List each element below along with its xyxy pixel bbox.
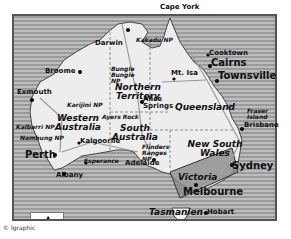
label-new-south-wales: New South Wales [180, 140, 250, 158]
label-exmouth: Exmouth [17, 89, 52, 96]
label-cooktown: Cooktown [209, 50, 248, 57]
label-darwin: Darwin [95, 40, 123, 47]
scale-bar: ▲ 0 500 km [30, 212, 64, 221]
label-hobart: Hobart [207, 209, 234, 216]
label-victoria: Victoria [178, 173, 217, 182]
label-cape-york: Cape York [160, 4, 199, 11]
label-alice-springs: Alice Springs [143, 96, 173, 110]
label-ayers-rock: Ayers Rock [102, 114, 139, 120]
label-cairns: Cairns [211, 58, 247, 68]
label-perth: Perth [25, 150, 56, 160]
label-kalgoorlie: Kalgoorlie [80, 138, 120, 145]
label-melbourne: Melbourne [183, 187, 243, 197]
label-kakadu-np: Kakadu NP [136, 37, 173, 43]
label-western-australia: Western Australia [48, 114, 108, 132]
label-sydney: Sydney [232, 161, 273, 171]
label-queensland: Queensland [175, 103, 235, 112]
label-albany: Albany [56, 172, 83, 179]
label-adelaide: Adelaide [125, 160, 159, 167]
north-arrow-icon: ▲ [45, 215, 51, 221]
label-kalbarri-np: Kalbarri NP [16, 124, 55, 130]
label-townsville: Townsville [218, 71, 276, 81]
label-karijini-np: Karijini NP [67, 102, 103, 108]
label-broome: Broome [45, 68, 75, 75]
label-esperance: Esperance [84, 158, 119, 164]
label-tasmanien: Tasmanien [149, 208, 203, 217]
label-mt-isa: Mt. Isa [171, 70, 198, 77]
label-fraser-island: Fraser Island [247, 108, 273, 120]
label-nambung-np: Nambung NP [20, 135, 64, 141]
copyright-text: © Igraphic [3, 224, 35, 231]
label-brisbane: Brisbane [244, 122, 279, 129]
